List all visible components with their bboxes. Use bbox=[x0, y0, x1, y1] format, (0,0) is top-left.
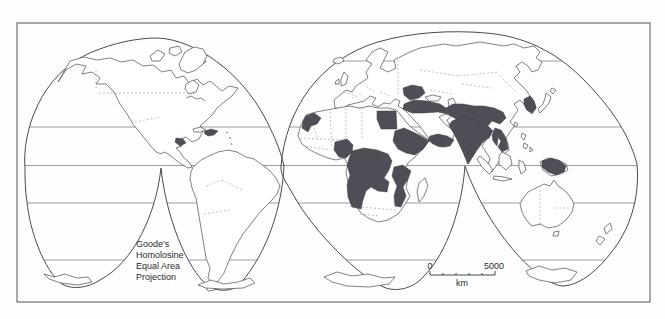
antarctica-australia-segment bbox=[526, 266, 577, 283]
south-america-coast bbox=[190, 150, 280, 284]
philippines bbox=[521, 133, 533, 152]
lesser-antilles bbox=[226, 132, 232, 145]
scale-start-label: 0 bbox=[427, 261, 432, 271]
greenland-coast bbox=[179, 47, 207, 73]
projection-label-line4: Projection bbox=[136, 272, 176, 282]
java bbox=[493, 176, 512, 181]
projection-label-line2: Homolosine bbox=[136, 250, 184, 260]
borneo bbox=[499, 152, 512, 170]
north-america-coast bbox=[58, 57, 238, 168]
madagascar bbox=[417, 178, 428, 202]
sulawesi bbox=[519, 160, 526, 174]
japan bbox=[538, 88, 556, 113]
map-figure: Goode's Homolosine Equal Area Projection… bbox=[0, 0, 665, 319]
ireland bbox=[335, 79, 339, 84]
shaded-region-sri-lanka bbox=[468, 151, 472, 155]
scale-end-label: 5000 bbox=[484, 261, 504, 271]
tasmania bbox=[553, 231, 559, 236]
shaded-region-new-guinea bbox=[542, 158, 566, 175]
antarctica-africa-segment bbox=[324, 272, 395, 287]
taiwan bbox=[514, 122, 518, 127]
new-zealand bbox=[596, 223, 612, 245]
antarctica-pacific-segment bbox=[44, 274, 92, 285]
shaded-region-egypt bbox=[377, 111, 397, 129]
projection-label-line3: Equal Area bbox=[136, 261, 180, 271]
britain bbox=[341, 72, 348, 86]
projection-label-line1: Goode's bbox=[136, 239, 170, 249]
projection-label: Goode's Homolosine Equal Area Projection bbox=[136, 239, 184, 282]
shaded-region-korea bbox=[524, 96, 536, 113]
scale-bar: 0 5000 km bbox=[427, 261, 504, 288]
goode-projection-map: Goode's Homolosine Equal Area Projection… bbox=[0, 0, 665, 319]
scale-unit-label: km bbox=[456, 278, 468, 288]
antarctica-southamerica-segment bbox=[198, 278, 255, 289]
australia-coast bbox=[520, 180, 574, 228]
